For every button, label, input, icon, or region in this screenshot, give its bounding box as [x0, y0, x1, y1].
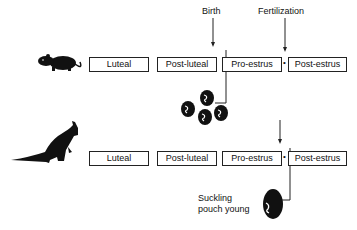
- pouch-young-label: pouch young: [198, 204, 250, 214]
- suckling-label: Suckling: [198, 193, 232, 203]
- pouch-young-icon: [0, 0, 357, 230]
